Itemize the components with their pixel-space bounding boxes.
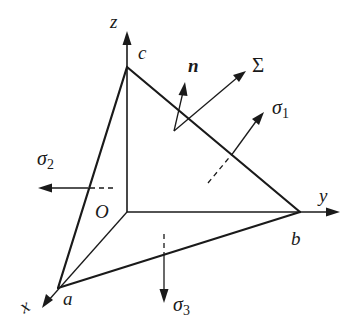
sigma2-label: σ2 — [37, 147, 54, 172]
vertex-c-label: c — [138, 42, 147, 63]
sigma1-arrow — [208, 112, 264, 183]
sigma3-label: σ3 — [173, 293, 190, 318]
edge-cb — [127, 67, 300, 212]
z-axis-label: z — [109, 11, 118, 32]
x-axis-arrowhead-icon — [42, 294, 53, 308]
sigma2-arrow — [38, 184, 113, 193]
sigma1-subscript: 1 — [282, 106, 289, 121]
normal-n-label: n — [188, 55, 199, 76]
normal-vector-n — [174, 82, 188, 131]
z-axis — [123, 31, 132, 212]
sigma2-subscript: 2 — [47, 157, 54, 172]
sigma1-label: σ1 — [272, 96, 289, 121]
vertex-a-label: a — [63, 288, 73, 309]
n-arrowhead-icon — [179, 82, 188, 96]
sigma3-arrowhead-icon — [160, 289, 169, 303]
sigma3-arrow — [160, 234, 169, 303]
x-axis-label: x — [15, 294, 34, 317]
y-axis-arrowhead-icon — [326, 208, 340, 217]
y-axis-label: y — [317, 185, 328, 206]
sigma3-subscript: 3 — [183, 303, 190, 318]
plane-vector-sigma — [174, 71, 246, 131]
triangle-abc — [58, 67, 300, 288]
z-axis-arrowhead-icon — [123, 31, 132, 45]
sigma2-arrowhead-icon — [38, 184, 52, 193]
origin-label: O — [95, 201, 109, 222]
edge-ba — [58, 212, 300, 288]
edge-ac — [58, 67, 127, 288]
sigma1-arrowhead-icon — [252, 112, 264, 125]
plane-sigma-label: Σ — [252, 53, 264, 77]
y-axis — [127, 208, 340, 217]
tetrahedron-diagram: z y x O c b a n Σ σ1 σ2 σ3 — [0, 0, 356, 336]
diagram-canvas: z y x O c b a n Σ σ1 σ2 σ3 — [0, 0, 356, 336]
x-axis — [42, 212, 127, 308]
vertex-b-label: b — [291, 228, 301, 249]
